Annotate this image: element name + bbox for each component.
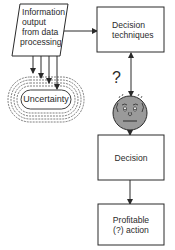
arrows-info-to-uncertainty [33,56,57,89]
decision-techniques-line-2: techniques [112,30,164,40]
information-output-line-2: output [22,17,68,27]
decision-techniques-label: Decision techniques [112,20,164,40]
information-output-line-1: Information [22,7,68,17]
information-output-label: Information output from data processing [22,7,68,47]
profitable-action-line-2: (?) action [98,225,164,235]
question-mark-icon: ? [112,70,121,86]
decision-maker-face-icon [113,94,147,130]
profitable-action-line-1: Profitable [98,215,164,225]
profitable-action-label: Profitable (?) action [98,215,164,235]
decision-techniques-line-1: Decision [112,20,164,30]
information-output-line-3: from data [22,27,68,37]
uncertainty-label: Uncertainty [21,94,71,104]
decision-label: Decision [98,153,164,163]
information-output-line-4: processing [20,37,68,47]
